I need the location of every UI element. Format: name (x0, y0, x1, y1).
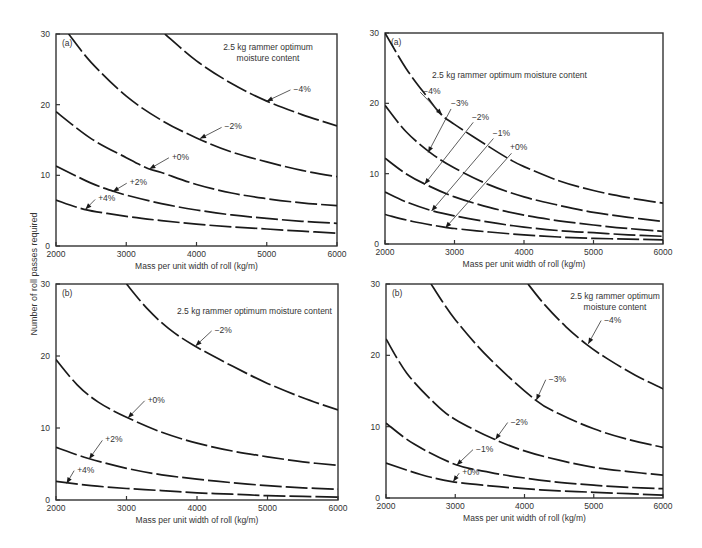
series-annotation-plus-2pct: +2% (130, 177, 148, 187)
x-tick-label: 4000 (188, 503, 207, 513)
arrowhead-icon (425, 178, 431, 184)
y-tick-label: 20 (370, 98, 380, 108)
arrowhead-icon (113, 186, 119, 191)
series-annotation-plus-0pct: +0% (148, 395, 166, 405)
arrowhead-icon (267, 96, 273, 101)
series-line-plus-2pct (56, 447, 338, 489)
x-tick-label: 3000 (445, 247, 464, 257)
x-tick-label: 3000 (117, 503, 136, 513)
series-line-plus-4pct (56, 200, 337, 233)
x-tick-label: 5000 (257, 249, 276, 259)
series-annotation-minus-2pct: −2% (215, 325, 233, 335)
x-tick-label: 6000 (654, 501, 673, 511)
x-tick-label: 6000 (654, 247, 673, 257)
x-tick-label: 4000 (515, 247, 534, 257)
y-tick-label: 10 (370, 169, 380, 179)
panel-title: 2.5 kg rammer optimum (223, 42, 313, 52)
x-axis-label: Mass per unit width of roll (kg/m) (135, 261, 258, 271)
series-annotation-minus-4pct: −4% (604, 315, 622, 325)
series-line-plus-0pct (56, 360, 338, 466)
series-line-plus-0pct (56, 112, 337, 206)
y-tick-label: 30 (370, 28, 380, 38)
y-tick-label: 10 (41, 170, 51, 180)
arrowhead-icon (200, 134, 206, 139)
x-tick-label: 3000 (446, 501, 465, 511)
leader-line (428, 109, 451, 153)
series-line-minus-1pct (385, 192, 663, 236)
plot-frame (56, 34, 337, 246)
panel-bottom-left: 010203020003000400050006000Mass per unit… (41, 279, 348, 525)
arrowhead-icon (536, 394, 541, 400)
panel-title: 2.5 kg rammer optimum moisture content (177, 306, 333, 316)
series-annotation-minus-1pct: −1% (476, 444, 494, 454)
series-annotation-plus-0pct: +0% (462, 467, 480, 477)
arrowhead-icon (495, 433, 500, 439)
series-line-minus-4pct (385, 33, 663, 203)
series-annotation-minus-1pct: −1% (493, 128, 511, 138)
x-axis-label: Mass per unit width of roll (kg/m) (463, 259, 586, 269)
x-tick-label: 4000 (515, 501, 534, 511)
series-line-minus-2pct (127, 284, 339, 410)
series-annotation-minus-2pct: −2% (511, 417, 529, 427)
x-tick-label: 5000 (584, 247, 603, 257)
series-line-plus-4pct (56, 481, 338, 497)
x-tick-label: 2000 (377, 501, 396, 511)
series-annotation-minus-3pct: −3% (549, 374, 567, 384)
plot-frame (385, 33, 663, 244)
y-tick-label: 30 (371, 279, 381, 289)
series-line-minus-3pct (385, 105, 663, 221)
x-tick-label: 2000 (47, 249, 66, 259)
arrowhead-icon (428, 146, 433, 152)
panel-title: 2.5 kg rammer optimum moisture content (432, 70, 588, 80)
series-line-plus-0pct (386, 463, 663, 495)
x-tick-label: 5000 (584, 501, 603, 511)
y-tick-label: 30 (41, 29, 51, 39)
panel-title: moisture content (584, 302, 647, 312)
series-annotation-minus-4pct: −4% (293, 84, 311, 94)
x-axis-label: Mass per unit width of roll (kg/m) (463, 513, 586, 523)
series-line-minus-2pct (386, 339, 663, 475)
series-annotation-plus-0pct: +0% (510, 142, 528, 152)
figure: Number of roll passes required 010203020… (0, 0, 702, 548)
series-annotation-minus-2pct: −2% (472, 112, 490, 122)
panel-title: moisture content (237, 53, 300, 63)
series-annotation-minus-4pct: −4% (423, 86, 441, 96)
y-tick-label: 10 (371, 422, 381, 432)
x-tick-label: 2000 (376, 247, 395, 257)
series-annotation-minus-2pct: −2% (225, 121, 243, 131)
arrowhead-icon (588, 338, 593, 344)
y-tick-label: 20 (41, 100, 51, 110)
x-tick-label: 2000 (47, 503, 66, 513)
series-line-minus-2pct (385, 158, 663, 231)
y-tick-label: 10 (41, 423, 51, 433)
y-tick-label: 20 (41, 351, 51, 361)
arrowhead-icon (149, 164, 155, 169)
x-tick-label: 6000 (328, 249, 347, 259)
panel-label: (b) (62, 288, 73, 298)
y-tick-label: 30 (41, 279, 51, 289)
panel-label: (b) (392, 288, 403, 298)
panel-title: 2.5 kg rammer optimum (570, 291, 660, 301)
plot-frame (56, 284, 338, 500)
x-tick-label: 6000 (329, 503, 348, 513)
series-annotation-plus-4pct: +4% (77, 465, 95, 475)
panel-top-right: 010203020003000400050006000Mass per unit… (370, 28, 673, 269)
series-annotation-plus-4pct: +4% (98, 193, 116, 203)
panel-bottom-right: 010203020003000400050006000Mass per unit… (371, 279, 673, 523)
x-tick-label: 5000 (258, 503, 277, 513)
x-tick-label: 3000 (117, 249, 136, 259)
arrowhead-icon (453, 475, 458, 481)
panel-label: (a) (62, 38, 73, 48)
series-annotation-plus-0pct: +0% (172, 152, 190, 162)
y-tick-label: 20 (371, 350, 381, 360)
x-axis-label: Mass per unit width of roll (kg/m) (136, 515, 259, 525)
series-annotation-minus-3pct: −3% (451, 98, 469, 108)
shared-y-axis-label: Number of roll passes required (29, 212, 39, 335)
x-tick-label: 4000 (187, 249, 206, 259)
panel-top-left: 010203020003000400050006000Mass per unit… (41, 29, 347, 271)
series-line-minus-1pct (386, 423, 663, 489)
arrowhead-icon (89, 453, 94, 459)
series-annotation-plus-2pct: +2% (105, 434, 123, 444)
